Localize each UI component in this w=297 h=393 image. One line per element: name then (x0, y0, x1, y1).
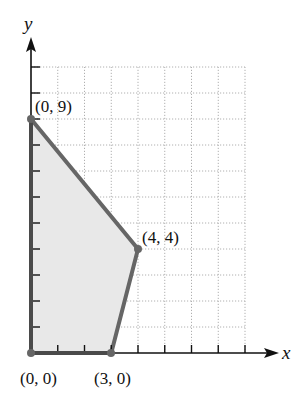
feasible-region-chart: y x (0, 9) (4, 4) (0, 0) (3, 0) (0, 0, 297, 393)
x-axis-label: x (281, 342, 291, 363)
vertex-0-0 (27, 349, 35, 357)
label-4-4: (4, 4) (142, 228, 179, 247)
label-3-0: (3, 0) (94, 369, 131, 388)
y-axis-label: y (22, 13, 33, 34)
vertex-4-4 (134, 245, 142, 253)
label-0-9: (0, 9) (35, 97, 72, 116)
vertex-3-0 (107, 349, 115, 357)
label-0-0: (0, 0) (20, 369, 57, 388)
vertex-0-9 (27, 115, 35, 123)
